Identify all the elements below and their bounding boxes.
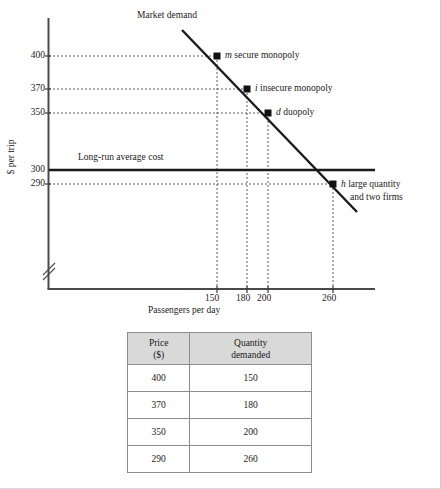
point-text-m: secure monopoly xyxy=(234,50,299,60)
table-header-price-line2: ($) xyxy=(128,349,189,361)
y-tick-label-300: 300 xyxy=(21,164,45,174)
x-tick-label-150: 150 xyxy=(205,293,219,303)
data-point-h xyxy=(330,181,337,188)
figure-page: 400 370 350 300 290 150 180 200 260 $ pe… xyxy=(0,0,441,489)
cell-quantity: 260 xyxy=(190,446,312,473)
point-label-d: d duopoly xyxy=(276,107,314,117)
point-label-i: i insecure monopoly xyxy=(255,83,333,93)
y-tick-label-350: 350 xyxy=(21,107,45,117)
point-label-m: m secure monopoly xyxy=(225,50,299,60)
point-letter-h: h xyxy=(341,179,346,189)
table-header-price: Price ($) xyxy=(128,333,190,365)
demand-chart: 400 370 350 300 290 150 180 200 260 $ pe… xyxy=(0,0,441,325)
long-run-average-cost-label: Long-run average cost xyxy=(78,152,163,162)
y-tick-label-290: 290 xyxy=(21,178,45,188)
cell-quantity: 200 xyxy=(190,419,312,446)
data-point-i xyxy=(244,86,251,93)
chart-canvas xyxy=(0,0,441,325)
table-header-quantity-line1: Quantity xyxy=(190,337,311,349)
point-letter-i: i xyxy=(255,83,258,93)
point-text-i: insecure monopoly xyxy=(260,83,333,93)
x-tick-label-200: 200 xyxy=(257,293,271,303)
market-demand-label: Market demand xyxy=(137,10,197,20)
demand-schedule-table: Price ($) Quantity demanded 400 150 370 … xyxy=(127,332,312,473)
y-tick-label-370: 370 xyxy=(21,83,45,93)
table-header-quantity-line2: demanded xyxy=(190,349,311,361)
cell-price: 350 xyxy=(128,419,190,446)
point-text-h: large quantity xyxy=(348,179,400,189)
point-letter-m: m xyxy=(225,50,232,60)
y-axis-title: $ per trip xyxy=(6,127,16,187)
table-header-quantity: Quantity demanded xyxy=(190,333,312,365)
x-axis-title: Passengers per day xyxy=(148,305,220,315)
point-letter-d: d xyxy=(276,107,281,117)
cell-quantity: 150 xyxy=(190,365,312,392)
cell-quantity: 180 xyxy=(190,392,312,419)
y-tick-label-400: 400 xyxy=(21,50,45,60)
cell-price: 290 xyxy=(128,446,190,473)
table-header-price-line1: Price xyxy=(128,337,189,349)
point-text-d: duopoly xyxy=(283,107,314,117)
table-row: 350 200 xyxy=(128,419,312,446)
point-label-h: h large quantity and two firms xyxy=(341,178,403,204)
table-row: 290 260 xyxy=(128,446,312,473)
table-row: 370 180 xyxy=(128,392,312,419)
point-text-h-line2: and two firms xyxy=(350,192,403,202)
x-tick-label-180: 180 xyxy=(236,293,250,303)
table-row: 400 150 xyxy=(128,365,312,392)
cell-price: 370 xyxy=(128,392,190,419)
data-point-d xyxy=(265,110,272,117)
data-point-m xyxy=(214,53,221,60)
demand-schedule-table-wrap: Price ($) Quantity demanded 400 150 370 … xyxy=(127,332,312,473)
table-header-row: Price ($) Quantity demanded xyxy=(128,333,312,365)
x-tick-label-260: 260 xyxy=(322,293,336,303)
cell-price: 400 xyxy=(128,365,190,392)
